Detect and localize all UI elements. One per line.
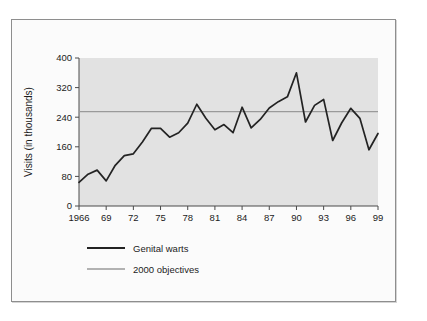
legend-label: 2000 objectives [133, 264, 199, 275]
y-tick-label: 0 [67, 200, 72, 211]
x-tick-label: 99 [373, 212, 384, 223]
x-tick-label: 75 [155, 212, 166, 223]
y-tick-label: 160 [56, 141, 72, 152]
x-tick-label: 81 [210, 212, 221, 223]
y-tick-label: 240 [56, 112, 72, 123]
x-tick-label: 96 [346, 212, 357, 223]
x-tick-label: 93 [318, 212, 329, 223]
y-tick-label: 400 [56, 52, 72, 63]
x-axis-ticks [79, 206, 378, 210]
plot-area-background [79, 58, 378, 206]
chart-legend: Genital warts2000 objectives [87, 243, 199, 275]
figure-root: 080160240320400 196669727578818487909396… [0, 0, 427, 321]
y-axis-tick-labels: 080160240320400 [56, 52, 72, 211]
x-tick-label: 1966 [68, 212, 89, 223]
legend-label: Genital warts [133, 243, 189, 254]
x-tick-label: 87 [264, 212, 275, 223]
x-tick-label: 84 [237, 212, 248, 223]
x-axis-tick-labels: 19666972757881848790939699 [68, 212, 383, 223]
line-chart: 080160240320400 196669727578818487909396… [12, 20, 395, 301]
x-tick-label: 69 [101, 212, 112, 223]
y-tick-label: 320 [56, 82, 72, 93]
x-tick-label: 78 [182, 212, 193, 223]
y-axis-title: Visits (in thousands) [23, 87, 34, 177]
x-tick-label: 72 [128, 212, 139, 223]
chart-frame: 080160240320400 196669727578818487909396… [11, 19, 396, 302]
y-tick-label: 80 [61, 171, 72, 182]
x-tick-label: 90 [291, 212, 302, 223]
y-axis-ticks [75, 58, 79, 206]
